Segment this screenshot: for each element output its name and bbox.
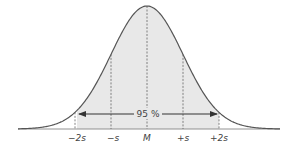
label-mean: M — [143, 133, 151, 143]
label-minus-2s: −2s — [68, 133, 86, 143]
label-minus-s: −s — [107, 133, 120, 143]
interval-label: 95 % — [137, 109, 160, 119]
label-plus-2s: +2s — [210, 133, 228, 143]
normal-distribution-diagram: 95 % −2s −s M +s +2s — [0, 0, 293, 146]
label-plus-s: +s — [177, 133, 190, 143]
bell-curve-svg: 95 % −2s −s M +s +2s — [0, 0, 293, 146]
